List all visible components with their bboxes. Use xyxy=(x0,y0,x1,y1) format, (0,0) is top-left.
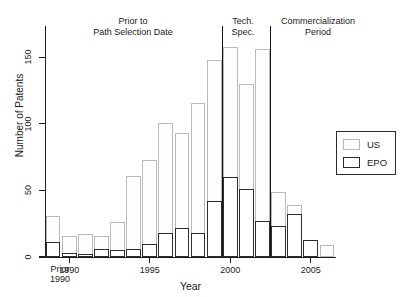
period-annotation-line1: Prior to xyxy=(73,16,193,27)
y-tick-label-text: 150 xyxy=(23,47,33,67)
legend-label-epo: EPO xyxy=(367,157,387,168)
x-tick-2000 xyxy=(230,257,231,263)
period-divider-2 xyxy=(270,26,272,257)
y-tick-label-0: 0 xyxy=(18,252,38,262)
period-divider-1 xyxy=(222,26,224,257)
x-tick-label-2000: 2000 xyxy=(220,265,240,275)
bar-epo-1998 xyxy=(191,233,206,257)
y-tick-label-text: 50 xyxy=(23,180,33,200)
period-annotation-1: Prior toPath Selection Date xyxy=(73,16,193,37)
y-tick-label-text: 100 xyxy=(23,114,33,134)
bar-epo-2002 xyxy=(255,221,270,257)
x-tick-label-prior: Prior 1990 xyxy=(50,265,70,284)
x-axis-title: Year xyxy=(45,280,336,292)
x-tick-label-1995: 1995 xyxy=(140,265,160,275)
y-tick-label-150: 150 xyxy=(18,52,38,62)
bar-epo-1990 xyxy=(62,253,77,257)
bar-us-1994 xyxy=(126,176,141,257)
bar-epo-1999 xyxy=(207,201,222,257)
x-tick-label-2005: 2005 xyxy=(301,265,321,275)
bar-epo-1993 xyxy=(110,250,125,257)
y-tick-50 xyxy=(39,190,45,191)
y-tick-label-50: 50 xyxy=(18,185,38,195)
bar-us-1995 xyxy=(142,160,157,257)
y-tick-0 xyxy=(39,256,45,257)
bar-us-2006 xyxy=(320,245,335,257)
period-annotation-3: CommercializationPeriod xyxy=(258,16,378,37)
bar-epo-1997 xyxy=(175,228,190,257)
legend-label-us: US xyxy=(367,139,380,150)
x-tick-1995 xyxy=(149,257,150,263)
legend-swatch-us-icon xyxy=(343,139,360,150)
patent-bar-chart-figure: Number of Patents Year 050100150 1990199… xyxy=(0,0,403,297)
prior-label-line2: 1990 xyxy=(50,275,70,285)
bar-epo-1996 xyxy=(158,233,173,257)
y-tick-150 xyxy=(39,57,45,58)
y-tick-label-text: 0 xyxy=(23,247,33,267)
legend-box: US EPO xyxy=(336,131,396,175)
y-tick-100 xyxy=(39,123,45,124)
legend-item-us: US xyxy=(343,137,380,152)
period-annotation-line2: Path Selection Date xyxy=(73,27,193,38)
legend-item-epo: EPO xyxy=(343,155,387,170)
bar-epo-1992 xyxy=(94,249,109,257)
bar-epo-2001 xyxy=(239,189,254,257)
x-tick-1990 xyxy=(69,257,70,263)
bar-epo-2004 xyxy=(287,214,302,257)
y-tick-label-100: 100 xyxy=(18,119,38,129)
bar-epo-2003 xyxy=(271,226,286,257)
legend-swatch-epo-icon xyxy=(343,157,360,168)
period-annotation-line1: Commercialization xyxy=(258,16,378,27)
x-tick-2005 xyxy=(310,257,311,263)
bar-epo-prior-1990 xyxy=(46,242,61,257)
bar-epo-1994 xyxy=(126,249,141,257)
plot-area: Number of Patents Year 050100150 1990199… xyxy=(0,0,403,297)
bar-epo-1995 xyxy=(142,244,157,257)
period-annotation-line2: Period xyxy=(258,27,378,38)
bar-epo-1991 xyxy=(78,254,93,257)
bar-epo-2005 xyxy=(303,240,318,257)
bar-epo-2000 xyxy=(223,177,238,257)
x-axis-line xyxy=(45,257,336,258)
